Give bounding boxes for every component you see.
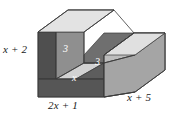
left-prong-front-face	[38, 32, 56, 79]
dimension-label-notch-width: x	[72, 73, 76, 83]
base-front-face	[38, 79, 104, 97]
dimension-label-height-left: x + 2	[3, 44, 27, 55]
dimension-label-depth-right: x + 5	[127, 92, 151, 103]
dimension-label-notch-depth-left: 3	[63, 44, 68, 54]
geometry-figure: x + 2 2x + 1 x + 5 3 3 x	[0, 0, 173, 117]
dimension-label-width-front: 2x + 1	[48, 100, 78, 111]
left-prong-top-highlight	[38, 10, 114, 32]
dimension-label-notch-depth-right: 3	[95, 57, 100, 67]
